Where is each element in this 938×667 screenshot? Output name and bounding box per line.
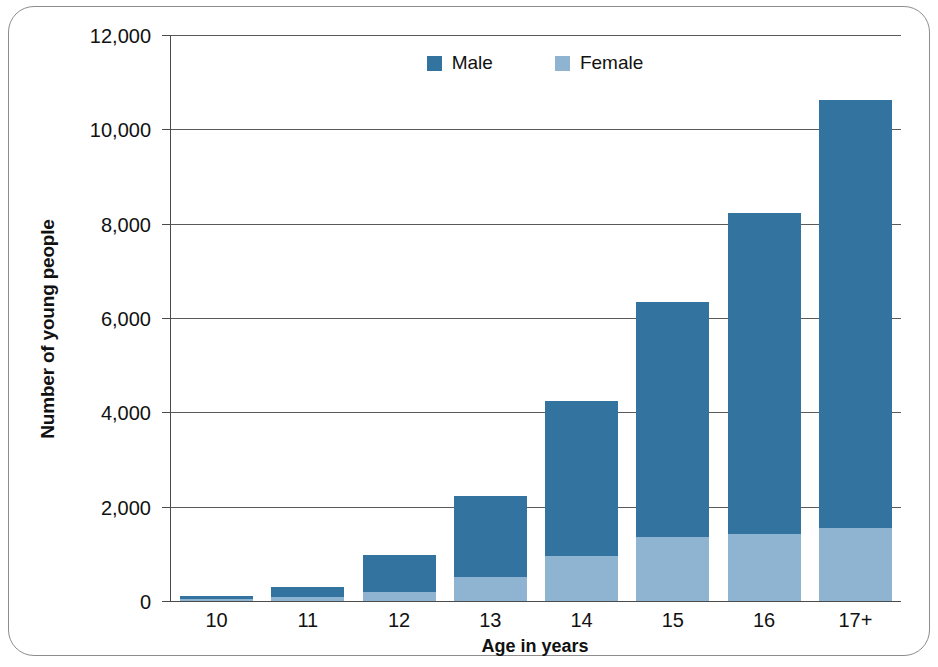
bar-segment-male[interactable] (545, 401, 618, 557)
plot-area: 12,00010,0008,0006,0004,0002,0000 101112… (170, 35, 901, 602)
y-axis-tick: 6,000 (162, 318, 171, 319)
y-axis-tick-label: 0 (140, 591, 151, 614)
y-axis-tick-label: 10,000 (90, 119, 151, 142)
x-axis-tick-label: 10 (171, 609, 262, 632)
stacked-bar[interactable] (454, 496, 527, 601)
x-axis-tick-label: 17+ (810, 609, 901, 632)
y-axis-tick: 8,000 (162, 224, 171, 225)
bar-slot: 13 (445, 35, 536, 601)
bar-segment-female[interactable] (636, 537, 709, 601)
x-axis-tick-label: 13 (445, 609, 536, 632)
y-axis-title: Number of young people (37, 189, 59, 469)
y-axis-tick-label: 6,000 (101, 308, 151, 331)
bar-segment-male[interactable] (636, 302, 709, 538)
x-axis-tick-label: 15 (627, 609, 718, 632)
bar-segment-male[interactable] (271, 587, 344, 597)
stacked-bar[interactable] (180, 596, 253, 601)
bar-segment-female[interactable] (271, 597, 344, 601)
bar-segment-male[interactable] (819, 100, 892, 528)
bar-segment-male[interactable] (454, 496, 527, 577)
y-axis-tick: 0 (162, 601, 171, 602)
legend-swatch-female-icon (555, 56, 570, 71)
y-axis-tick: 4,000 (162, 412, 171, 413)
chart-figure: Number of young people 12,00010,0008,000… (0, 0, 938, 667)
x-axis-tick-label: 11 (262, 609, 353, 632)
y-axis-tick: 2,000 (162, 507, 171, 508)
y-axis-tick-label: 12,000 (90, 25, 151, 48)
bar-group: 1011121314151617+ (171, 35, 901, 601)
x-axis-title: Age in years (170, 636, 900, 657)
bar-slot: 11 (262, 35, 353, 601)
x-axis-tick-label: 16 (719, 609, 810, 632)
bar-slot: 10 (171, 35, 262, 601)
chart-legend: MaleFemale (170, 52, 900, 74)
legend-item-male[interactable]: Male (427, 52, 493, 74)
bar-segment-female[interactable] (454, 577, 527, 601)
stacked-bar[interactable] (636, 302, 709, 602)
bar-slot: 12 (354, 35, 445, 601)
y-axis-tick-label: 8,000 (101, 213, 151, 236)
bar-segment-female[interactable] (363, 592, 436, 601)
legend-label: Female (580, 52, 643, 74)
bar-segment-female[interactable] (728, 534, 801, 601)
bar-slot: 15 (627, 35, 718, 601)
y-axis-tick-label: 4,000 (101, 402, 151, 425)
legend-item-female[interactable]: Female (555, 52, 643, 74)
y-axis-tick-label: 2,000 (101, 496, 151, 519)
y-axis-tick: 12,000 (162, 35, 171, 36)
bar-segment-female[interactable] (819, 528, 892, 601)
stacked-bar[interactable] (545, 401, 618, 601)
legend-swatch-male-icon (427, 56, 442, 71)
bar-segment-female[interactable] (545, 556, 618, 601)
bar-segment-female[interactable] (180, 599, 253, 601)
legend-label: Male (452, 52, 493, 74)
stacked-bar[interactable] (271, 587, 344, 601)
x-axis-tick-label: 14 (536, 609, 627, 632)
stacked-bar[interactable] (819, 100, 892, 601)
bar-segment-male[interactable] (728, 213, 801, 534)
bar-segment-male[interactable] (363, 555, 436, 592)
bar-slot: 17+ (810, 35, 901, 601)
bar-slot: 16 (719, 35, 810, 601)
y-axis-tick: 10,000 (162, 129, 171, 130)
x-axis-tick-label: 12 (354, 609, 445, 632)
stacked-bar[interactable] (728, 213, 801, 601)
bar-slot: 14 (536, 35, 627, 601)
stacked-bar[interactable] (363, 555, 436, 601)
